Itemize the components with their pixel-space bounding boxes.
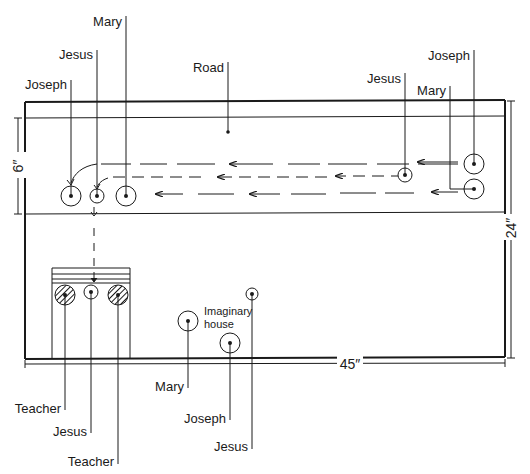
joseph-label-right: Joseph <box>428 48 470 63</box>
imaginary-house-label-line2: house <box>204 318 234 330</box>
road-label-group: Road <box>193 60 230 134</box>
road-width-dimension: 6″ <box>10 118 26 214</box>
imaginary-house-label-line1: Imaginary <box>204 305 253 317</box>
floor-plan-diagram: 6″ 24″ 45″ Road <box>0 0 530 474</box>
road-label: Road <box>193 60 224 75</box>
mary-label-right: Mary <box>417 83 446 98</box>
imaginary-house-area: Imaginary house Mary Joseph Jesus <box>155 288 258 454</box>
jesus-label-right: Jesus <box>367 71 401 86</box>
jesus-label-left: Jesus <box>59 47 93 62</box>
jesus-temple-label: Jesus <box>53 424 87 439</box>
road-figures-right: Joseph Jesus Mary <box>367 48 484 199</box>
mary-house-label: Mary <box>155 379 184 394</box>
temple: Teacher Jesus Teacher <box>15 268 130 469</box>
width-label: 45″ <box>340 356 361 372</box>
joseph-label-left: Joseph <box>25 77 67 92</box>
mary-label-left: Mary <box>93 14 122 29</box>
joseph-house-label: Joseph <box>184 411 226 426</box>
road-width-label: 6″ <box>10 160 26 173</box>
teacher-right-label: Teacher <box>68 454 115 469</box>
teacher-left-label: Teacher <box>15 401 62 416</box>
height-label: 24″ <box>503 218 519 239</box>
jesus-house-label: Jesus <box>214 439 248 454</box>
